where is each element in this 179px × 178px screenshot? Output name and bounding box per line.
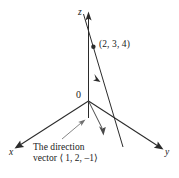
arrowhead-down-right-icon	[154, 142, 164, 150]
point-marker-dot	[91, 45, 95, 49]
x-axis-label: x	[9, 147, 13, 158]
caption-line-1: The direction	[33, 142, 98, 153]
line-direction-arrowhead-icon	[93, 74, 101, 82]
point-coordinates-label: (2, 3, 4)	[99, 39, 130, 50]
y-axis-label: y	[165, 147, 169, 158]
three-d-line-figure: .ax { stroke: #2b2b2b; stroke-width: 1.0…	[0, 0, 179, 178]
parametric-line	[84, 14, 124, 147]
caption-line-2: vector ⟨ 1, 2, –1⟩	[33, 153, 98, 164]
arrowhead-down-left-icon	[15, 141, 25, 149]
caption-leader	[62, 120, 86, 140]
direction-vector-caption: The direction vector ⟨ 1, 2, –1⟩	[33, 142, 98, 163]
z-axis-label: z	[78, 7, 82, 18]
y-axis	[89, 101, 164, 150]
origin-label: 0	[76, 89, 81, 100]
vector-arrowhead-icon	[99, 126, 106, 135]
